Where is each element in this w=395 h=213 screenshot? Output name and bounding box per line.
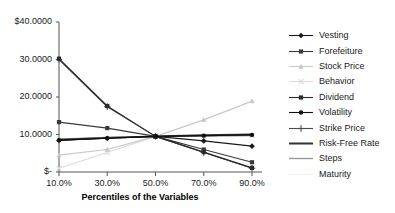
y-axis-tick-label: 30.0000: [0, 54, 52, 64]
legend-label: Stock Price: [319, 61, 365, 72]
legend-key-icon: [288, 92, 314, 103]
legend-item-volatility[interactable]: Volatility: [288, 105, 395, 120]
legend-item-vesting[interactable]: Vesting: [288, 28, 395, 43]
line-chart: $40.000030.000020.000010.0000$- 10.0%30.…: [0, 0, 395, 213]
legend-item-steps[interactable]: Steps: [288, 151, 395, 166]
y-axis-tick-label: 10.0000: [0, 129, 52, 139]
y-axis-tick-label: 20.0000: [0, 91, 52, 101]
y-axis-tick-label: $-: [0, 166, 52, 176]
legend-label: Volatility: [319, 107, 352, 118]
x-axis-tick-label: 10.0%: [33, 178, 85, 188]
legend-key-icon: [288, 107, 314, 118]
legend-label: Maturity: [319, 169, 351, 180]
x-axis-tick-label: 30.0%: [81, 178, 133, 188]
x-axis-tick-label: 90.0%: [226, 178, 278, 188]
x-axis-title: Percentiles of the Variables: [10, 192, 270, 202]
legend-label: Steps: [319, 153, 342, 164]
x-axis-tick-label: 50.0%: [130, 178, 182, 188]
legend-label: Strike Price: [319, 123, 365, 134]
legend-item-forefeiture[interactable]: Forefeiture: [288, 43, 395, 58]
legend-item-strike-price[interactable]: Strike Price: [288, 120, 395, 135]
legend-key-icon: [288, 76, 314, 87]
legend-item-stock-price[interactable]: Stock Price: [288, 59, 395, 74]
legend-key-icon: [288, 61, 314, 72]
legend-key-icon: [288, 153, 314, 164]
legend-item-risk-free-rate[interactable]: Risk-Free Rate: [288, 136, 395, 151]
legend-item-maturity[interactable]: Maturity: [288, 167, 395, 182]
y-axis-tick-label: $40.0000: [0, 16, 52, 26]
legend-key-icon: [288, 138, 314, 149]
legend-label: Risk-Free Rate: [319, 138, 380, 149]
legend-key-icon: [288, 46, 314, 57]
chart-legend: VestingForefeitureStock PriceBehaviorDiv…: [288, 28, 395, 182]
legend-label: Dividend: [319, 92, 354, 103]
legend-label: Forefeiture: [319, 46, 363, 57]
legend-label: Vesting: [319, 30, 349, 41]
legend-key-icon: [288, 169, 314, 180]
x-axis-tick-label: 70.0%: [178, 178, 230, 188]
legend-item-dividend[interactable]: Dividend: [288, 90, 395, 105]
legend-key-icon: [288, 30, 314, 41]
legend-item-behavior[interactable]: Behavior: [288, 74, 395, 89]
legend-label: Behavior: [319, 76, 355, 87]
legend-key-icon: [288, 123, 314, 134]
